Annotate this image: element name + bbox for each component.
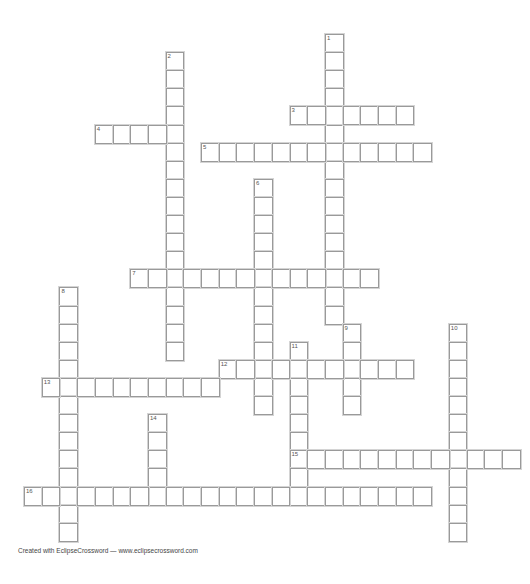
crossword-cell[interactable] — [254, 233, 273, 252]
crossword-cell[interactable] — [254, 324, 273, 343]
crossword-cell[interactable] — [201, 269, 220, 288]
crossword-cell[interactable] — [183, 269, 202, 288]
crossword-cell[interactable]: 5 — [201, 143, 220, 162]
crossword-cell[interactable] — [254, 342, 273, 361]
crossword-cell[interactable] — [449, 432, 468, 451]
crossword-cell[interactable] — [290, 143, 309, 162]
crossword-cell[interactable] — [325, 52, 344, 71]
crossword-cell[interactable] — [360, 106, 379, 125]
crossword-cell[interactable] — [325, 197, 344, 216]
crossword-cell[interactable]: 12 — [219, 360, 238, 379]
crossword-cell[interactable]: 15 — [290, 450, 309, 469]
crossword-cell[interactable] — [148, 468, 167, 487]
crossword-cell[interactable] — [113, 125, 132, 144]
crossword-cell[interactable] — [254, 143, 273, 162]
crossword-cell[interactable]: 13 — [42, 378, 61, 397]
crossword-cell[interactable] — [42, 487, 61, 506]
crossword-cell[interactable] — [166, 269, 185, 288]
crossword-cell[interactable] — [254, 215, 273, 234]
crossword-cell[interactable] — [113, 487, 132, 506]
crossword-cell[interactable]: 7 — [130, 269, 149, 288]
crossword-cell[interactable] — [360, 487, 379, 506]
crossword-cell[interactable] — [95, 378, 114, 397]
crossword-cell[interactable] — [59, 505, 78, 524]
crossword-cell[interactable] — [449, 342, 468, 361]
crossword-cell[interactable] — [325, 450, 344, 469]
crossword-cell[interactable] — [396, 106, 415, 125]
crossword-cell[interactable] — [378, 106, 397, 125]
crossword-cell[interactable] — [148, 269, 167, 288]
crossword-cell[interactable] — [201, 487, 220, 506]
crossword-cell[interactable] — [290, 414, 309, 433]
crossword-cell[interactable] — [59, 487, 78, 506]
crossword-cell[interactable] — [272, 360, 291, 379]
crossword-cell[interactable] — [166, 233, 185, 252]
crossword-cell[interactable] — [307, 450, 326, 469]
crossword-cell[interactable] — [307, 143, 326, 162]
crossword-cell[interactable] — [166, 125, 185, 144]
crossword-cell[interactable] — [307, 106, 326, 125]
crossword-cell[interactable] — [219, 143, 238, 162]
crossword-cell[interactable] — [59, 324, 78, 343]
crossword-cell[interactable] — [325, 251, 344, 270]
crossword-cell[interactable] — [449, 468, 468, 487]
crossword-cell[interactable]: 9 — [343, 324, 362, 343]
crossword-cell[interactable] — [113, 378, 132, 397]
crossword-cell[interactable] — [325, 287, 344, 306]
crossword-cell[interactable] — [290, 487, 309, 506]
crossword-cell[interactable] — [183, 378, 202, 397]
crossword-cell[interactable] — [59, 378, 78, 397]
crossword-cell[interactable] — [95, 487, 114, 506]
crossword-cell[interactable]: 2 — [166, 52, 185, 71]
crossword-cell[interactable] — [166, 88, 185, 107]
crossword-cell[interactable] — [325, 306, 344, 325]
crossword-cell[interactable] — [77, 378, 96, 397]
crossword-cell[interactable] — [236, 143, 255, 162]
crossword-cell[interactable] — [449, 487, 468, 506]
crossword-cell[interactable] — [467, 450, 486, 469]
crossword-cell[interactable] — [166, 287, 185, 306]
crossword-cell[interactable] — [59, 342, 78, 361]
crossword-cell[interactable] — [290, 360, 309, 379]
crossword-cell[interactable]: 14 — [148, 414, 167, 433]
crossword-cell[interactable] — [307, 269, 326, 288]
crossword-cell[interactable] — [59, 414, 78, 433]
crossword-cell[interactable] — [130, 378, 149, 397]
crossword-cell[interactable] — [166, 251, 185, 270]
crossword-cell[interactable] — [272, 269, 291, 288]
crossword-cell[interactable] — [166, 70, 185, 89]
crossword-cell[interactable] — [325, 179, 344, 198]
crossword-cell[interactable] — [201, 378, 220, 397]
crossword-cell[interactable] — [360, 143, 379, 162]
crossword-cell[interactable] — [449, 360, 468, 379]
crossword-cell[interactable] — [449, 523, 468, 542]
crossword-cell[interactable] — [360, 360, 379, 379]
crossword-cell[interactable]: 10 — [449, 324, 468, 343]
crossword-cell[interactable] — [396, 143, 415, 162]
crossword-cell[interactable] — [166, 197, 185, 216]
crossword-cell[interactable] — [325, 70, 344, 89]
crossword-cell[interactable] — [166, 324, 185, 343]
crossword-cell[interactable] — [343, 342, 362, 361]
crossword-cell[interactable] — [325, 88, 344, 107]
crossword-cell[interactable] — [413, 450, 432, 469]
crossword-cell[interactable] — [166, 106, 185, 125]
crossword-cell[interactable] — [254, 396, 273, 415]
crossword-cell[interactable] — [325, 487, 344, 506]
crossword-cell[interactable] — [413, 143, 432, 162]
crossword-cell[interactable] — [343, 450, 362, 469]
crossword-cell[interactable] — [166, 342, 185, 361]
crossword-cell[interactable] — [130, 487, 149, 506]
crossword-cell[interactable] — [59, 306, 78, 325]
crossword-cell[interactable] — [236, 487, 255, 506]
crossword-cell[interactable]: 4 — [95, 125, 114, 144]
crossword-cell[interactable] — [166, 306, 185, 325]
crossword-cell[interactable] — [343, 360, 362, 379]
crossword-cell[interactable] — [148, 487, 167, 506]
crossword-cell[interactable] — [254, 306, 273, 325]
crossword-cell[interactable] — [378, 487, 397, 506]
crossword-cell[interactable] — [166, 215, 185, 234]
crossword-cell[interactable] — [59, 523, 78, 542]
crossword-cell[interactable] — [449, 396, 468, 415]
crossword-cell[interactable] — [413, 487, 432, 506]
